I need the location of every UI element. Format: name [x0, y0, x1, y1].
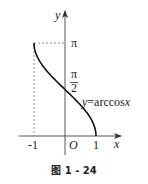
y-tick-label-half-pi-numerator: π [71, 67, 77, 81]
y-tick-label-pi: π [71, 36, 77, 50]
y-tick-label-half-pi-denominator: 2 [71, 81, 77, 95]
x-axis-label: x [113, 137, 120, 151]
function-label-x: x [124, 95, 131, 109]
x-tick-label-neg1: -1 [28, 138, 38, 152]
chart: x y O -1 1 π π 2 y=arccosx 图 1 - 24 [0, 0, 148, 184]
function-label-eq: =arccos [87, 95, 125, 109]
function-label: y=arccosx [81, 95, 131, 109]
figure-caption: 图 1 - 24 [51, 165, 97, 176]
origin-label: O [69, 138, 78, 152]
x-tick-label-1: 1 [93, 138, 99, 152]
y-axis-label: y [54, 8, 61, 22]
